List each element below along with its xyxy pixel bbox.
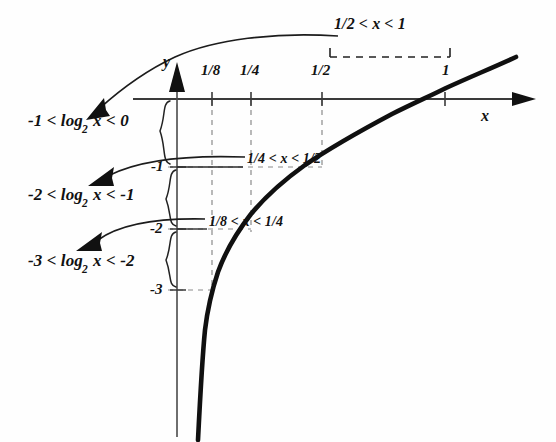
y-tick-label-minus1: -1 (151, 159, 164, 174)
y-interval-braces (160, 101, 176, 287)
y-tick-label-minus3: -3 (150, 282, 163, 297)
x-tick-label-one: 1 (442, 63, 450, 78)
brace-minus1-to-minus2 (166, 170, 176, 226)
x-tick-label-half: 1/2 (311, 63, 330, 78)
leader-arrowhead-bottom (76, 232, 102, 251)
dashed-bracket-top (330, 48, 450, 57)
log-range-1-sub: 2 (82, 197, 88, 210)
x-tick-label-eighth: 1/8 (201, 63, 220, 78)
brace-minus2-to-minus3 (166, 232, 176, 287)
log2-curve (198, 57, 516, 440)
log-range-1-post: x < -1 (89, 185, 135, 204)
x-axis (133, 92, 536, 106)
leader-line-bottom (76, 219, 205, 251)
log-range-2-post: x < -2 (89, 251, 135, 270)
log-range-label-0: -1 < log2 x < 0 (28, 112, 129, 133)
inner-range-label-eighth-quarter: 1/8 < x < 1/4 (209, 215, 283, 229)
y-tick-label-minus2: -2 (150, 221, 163, 236)
x-tick-label-quarter: 1/4 (240, 63, 259, 78)
log-range-1-pre: -2 < (28, 185, 61, 204)
log-range-0-sub: 2 (82, 123, 88, 136)
inner-range-label-quarter-half: 1/4 < x < 1/2 (247, 152, 321, 166)
log-range-0-post: x < 0 (89, 111, 129, 130)
brace-0-to-minus1 (160, 101, 170, 164)
log-range-2-log: log (61, 251, 83, 270)
y-axis-arrowhead (169, 62, 185, 92)
y-axis-label: y (163, 54, 170, 70)
log-range-0-pre: -1 < (28, 111, 61, 130)
leader-arrowhead-middle (88, 167, 114, 186)
top-range-label: 1/2 < x < 1 (334, 16, 406, 32)
log-range-0-log: log (61, 111, 83, 130)
y-axis (169, 62, 186, 437)
log-range-2-sub: 2 (82, 263, 88, 276)
log-graph-figure: 1/2 < x < 1 1/8 1/4 1/2 1 y x -1 -2 -3 1… (0, 0, 556, 442)
log-range-label-1: -2 < log2 x < -1 (28, 186, 135, 207)
log-range-2-pre: -3 < (28, 251, 61, 270)
x-axis-label: x (481, 108, 489, 124)
log-range-label-2: -3 < log2 x < -2 (28, 252, 135, 273)
log-range-1-log: log (61, 185, 83, 204)
x-axis-arrowhead (512, 92, 536, 106)
